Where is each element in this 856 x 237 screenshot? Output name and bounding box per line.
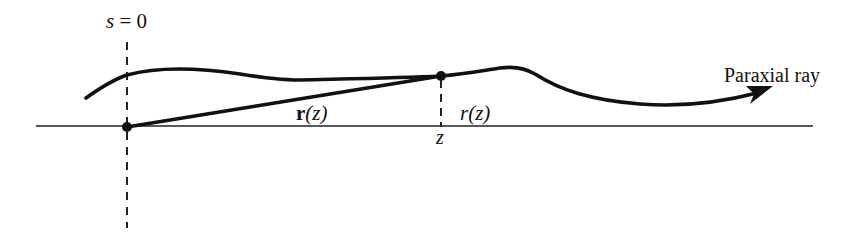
z-tick-label: z [435, 126, 444, 148]
paraxial-ray-curve [86, 67, 757, 105]
position-vector-label-arg: (z) [305, 101, 327, 125]
paraxial-ray-diagram: s = 0 r(z) r(z) z Paraxial ray [0, 0, 856, 237]
origin-label-s: s [106, 9, 114, 33]
position-vector-label-r: r [296, 101, 305, 125]
ray-point [436, 71, 446, 81]
radial-distance-label-arg: (z) [468, 101, 490, 125]
position-vector-line [127, 76, 441, 127]
origin-label-eq: = 0 [114, 9, 147, 33]
origin-label: s = 0 [106, 9, 147, 33]
paraxial-ray-label: Paraxial ray [724, 64, 820, 87]
radial-distance-label: r(z) [460, 101, 490, 125]
position-vector-label: r(z) [296, 101, 328, 125]
origin-point [122, 122, 132, 132]
